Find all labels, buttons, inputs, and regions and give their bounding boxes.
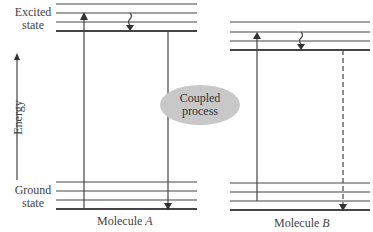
molecule-b-label: Molecule B — [274, 216, 330, 231]
molecule-b-letter: B — [322, 216, 329, 230]
energy-arrow-icon — [14, 53, 20, 60]
molecule-a-relaxation-wavy — [129, 13, 132, 25]
excited-state-label: Excited state — [8, 6, 58, 32]
molecule-b-name: Molecule — [274, 216, 319, 230]
ground-state-label: Ground state — [8, 184, 58, 210]
arrowhead-up-icon — [253, 32, 261, 39]
molecule-a-letter: A — [145, 214, 152, 228]
molecule-a-name: Molecule — [97, 214, 142, 228]
coupled-label-line2: process — [180, 105, 221, 118]
coupled-process-ellipse: Coupled process — [160, 85, 240, 125]
energy-axis-label: Energy — [11, 98, 26, 138]
ground-label-line2: state — [8, 197, 58, 210]
molecule-b-relaxation-wavy — [300, 32, 303, 44]
molecule-a-label: Molecule A — [97, 214, 153, 229]
excited-label-line2: state — [8, 19, 58, 32]
